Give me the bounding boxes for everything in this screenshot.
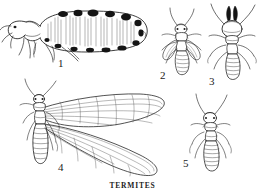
nymph-eye-left — [177, 28, 179, 30]
figure-label-3: 3 — [209, 76, 215, 87]
illustration-plate: 1 2 3 4 5 TERMITES — [0, 0, 265, 194]
worker-thorax — [205, 131, 216, 141]
plate-caption: TERMITES — [0, 181, 265, 190]
queen-head — [8, 21, 26, 39]
worker-eye-left — [205, 117, 207, 119]
figure-label-2: 2 — [160, 70, 166, 81]
soldier-head — [222, 21, 242, 38]
worker-pronotum — [205, 123, 217, 132]
soldier-thorax — [227, 44, 238, 54]
nymph-pronotum — [176, 33, 188, 42]
nymph-eye-right — [184, 28, 186, 30]
worker-eye-right — [213, 117, 215, 119]
queen-eye — [14, 26, 17, 29]
soldier-pronotum — [226, 36, 239, 45]
figure-label-4: 4 — [58, 162, 64, 173]
figure-label-5: 5 — [183, 158, 189, 169]
alate-eye-right — [42, 98, 44, 100]
nymph-thorax — [176, 41, 186, 51]
alate-eye-left — [35, 98, 37, 100]
alate-pronotum — [34, 103, 46, 112]
figure-label-1: 1 — [58, 58, 64, 69]
termites-illustration — [0, 0, 265, 194]
